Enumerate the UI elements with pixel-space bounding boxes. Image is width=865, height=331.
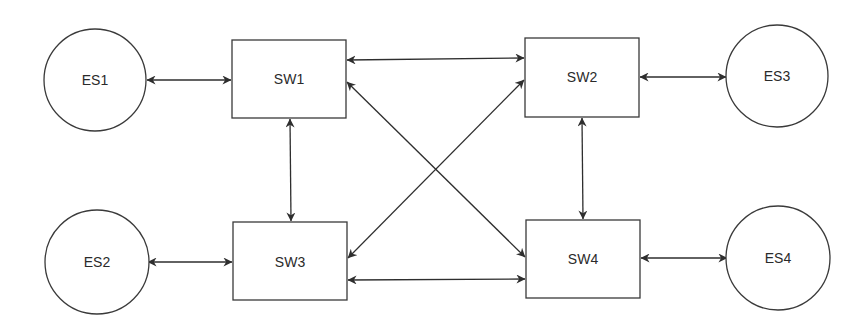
node-sw1: SW1	[232, 40, 346, 118]
node-label: SW2	[567, 69, 598, 85]
node-label: ES1	[82, 72, 109, 88]
node-label: ES4	[765, 250, 792, 266]
node-label: SW4	[568, 251, 599, 267]
node-sw3: SW3	[233, 222, 347, 300]
link-sw1-sw3	[290, 119, 291, 221]
node-es4: ES4	[726, 206, 830, 310]
node-sw4: SW4	[526, 220, 640, 298]
node-sw2: SW2	[525, 38, 639, 117]
link-sw1-sw2	[347, 58, 524, 60]
node-label: ES2	[84, 254, 111, 270]
network-topology-diagram: ES1 ES2 ES3 ES4 SW1 SW2 SW3 SW4	[0, 0, 865, 331]
node-label: ES3	[764, 68, 791, 84]
node-label: SW3	[275, 254, 306, 270]
node-label: SW1	[274, 71, 305, 87]
node-es1: ES1	[44, 29, 146, 131]
node-es3: ES3	[726, 25, 828, 127]
link-sw2-sw4	[582, 118, 583, 219]
node-es2: ES2	[45, 210, 149, 314]
link-sw3-sw4	[348, 279, 525, 280]
link-sw3-sw2	[348, 80, 524, 258]
